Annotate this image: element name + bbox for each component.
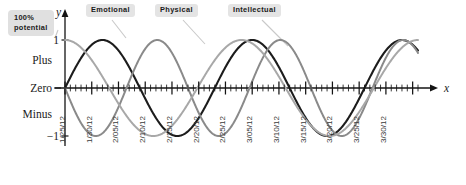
legend-item-physical: Physical <box>155 4 198 17</box>
legend-leader-lines <box>55 20 288 46</box>
x-axis-tick-label: 3/25/12 <box>352 115 361 143</box>
y-axis-label-plus: Plus <box>32 54 52 66</box>
callout-100-percent-potential: 100% potential <box>8 10 54 36</box>
legend-label-emotional: Emotional <box>91 5 130 14</box>
x-axis-tick-label: 1/25/12 <box>58 115 67 143</box>
callout-line-1: 100% <box>14 13 34 22</box>
legend-item-emotional: Emotional <box>86 4 135 17</box>
y-axis-label-zero: Zero <box>30 82 52 94</box>
legend-leader-physical <box>183 20 205 44</box>
y-axis-tick-top: 1 <box>53 34 59 46</box>
biorhythm-chart: 1/25/121/30/122/05/122/10/122/15/122/20/… <box>0 0 466 185</box>
x-axis-tick-label: 2/15/12 <box>165 115 174 143</box>
x-axis-tick-label: 3/05/12 <box>245 115 254 143</box>
y-axis-tick-bottom: −1 <box>47 130 59 142</box>
y-axis-label-minus: Minus <box>23 108 53 120</box>
chart-canvas: 1/25/121/30/122/05/122/10/122/15/122/20/… <box>0 0 466 185</box>
x-axis-tick-label: 2/10/12 <box>138 115 147 143</box>
y-axis-letter: y <box>55 6 62 19</box>
legend-leader-emotional <box>112 20 126 38</box>
x-axis-tick-label: 2/20/12 <box>192 115 201 143</box>
x-axis-tick-label: 1/30/12 <box>85 115 94 143</box>
x-axis-tick-label: 3/30/12 <box>379 115 388 143</box>
legend-label-intellectual: Intellectual <box>233 5 276 14</box>
x-axis-tick-label: 3/10/12 <box>272 115 281 143</box>
x-axis-tick-label: 2/05/12 <box>111 115 120 143</box>
callout-line-2: potential <box>14 23 48 32</box>
legend-label-physical: Physical <box>160 5 193 14</box>
x-axis-tick-label: 2/25/12 <box>218 115 227 143</box>
x-axis-tick-label: 3/20/12 <box>325 115 334 143</box>
x-axis-tick-label: 3/15/12 <box>299 115 308 143</box>
x-axis-letter: x <box>443 82 450 94</box>
legend-item-intellectual: Intellectual <box>228 4 281 17</box>
